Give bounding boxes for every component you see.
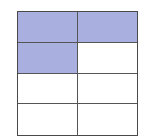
empty-cell [18,104,78,135]
shaded-cell [78,12,138,43]
fraction-grid [17,11,138,136]
empty-cell [78,104,138,135]
empty-cell [18,74,78,105]
empty-cell [78,43,138,74]
shaded-cell [18,43,78,74]
shaded-cell [18,12,78,43]
empty-cell [78,74,138,105]
